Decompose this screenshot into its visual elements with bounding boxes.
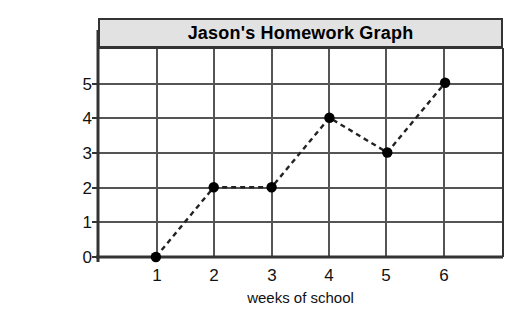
- data-point-week-1: [151, 252, 161, 262]
- plot-area: [0, 0, 526, 321]
- data-point-week-4: [324, 113, 334, 123]
- data-point-week-3: [266, 182, 276, 192]
- data-point-week-6: [440, 78, 450, 88]
- homework-line-chart: number of homework assignments turned in…: [0, 0, 526, 321]
- data-point-week-2: [209, 182, 219, 192]
- data-point-week-5: [382, 147, 392, 157]
